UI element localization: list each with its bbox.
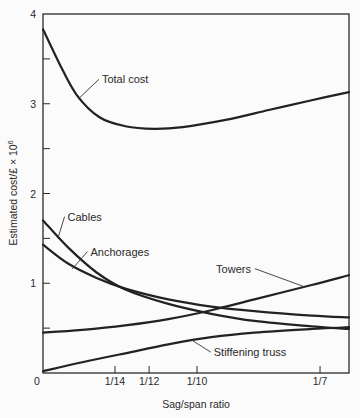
- x-axis-label: Sag/span ratio: [162, 398, 230, 410]
- series-line-total-cost: [43, 29, 349, 129]
- y-tick-label: 2: [30, 188, 36, 200]
- y-tick-label: 1: [30, 277, 36, 289]
- leader-line-stiffening-truss: [193, 341, 211, 352]
- y-tick-label: 4: [30, 8, 36, 20]
- cost-vs-sag-span-chart: 1234 1/141/121/101/7 Total costCablesAnc…: [0, 0, 360, 418]
- x-axis-ticks: 1/141/121/101/7: [105, 366, 328, 387]
- series-label-cables: Cables: [68, 211, 103, 223]
- y-axis-label-exponent: 6: [7, 140, 14, 144]
- y-tick-label: 3: [30, 98, 36, 110]
- x-origin-label: 0: [34, 375, 40, 387]
- plot-frame: [43, 14, 349, 373]
- series-line-anchorages: [43, 245, 349, 318]
- leader-line-total-cost: [78, 79, 99, 99]
- x-tick-label: 1/10: [187, 375, 208, 387]
- x-tick-label: 1/12: [139, 375, 160, 387]
- series-label-total-cost: Total cost: [102, 73, 148, 85]
- series-label-towers: Towers: [216, 263, 251, 275]
- series-annotations: Total costCablesAnchoragesTowersStiffeni…: [58, 73, 305, 358]
- leader-line-towers: [255, 269, 305, 287]
- y-axis-label-main: Estimated cost/£ × 10: [7, 144, 19, 245]
- y-axis-ticks: 1234: [30, 8, 50, 328]
- y-axis-label: Estimated cost/£ × 106: [7, 140, 19, 245]
- series-line-stiffening-truss: [43, 327, 349, 371]
- series-curves: [43, 29, 349, 371]
- leader-line-cables: [58, 217, 65, 239]
- series-label-stiffening-truss: Stiffening truss: [214, 346, 287, 358]
- x-tick-label: 1/14: [105, 375, 126, 387]
- series-label-anchorages: Anchorages: [90, 246, 149, 258]
- x-tick-label: 1/7: [313, 375, 328, 387]
